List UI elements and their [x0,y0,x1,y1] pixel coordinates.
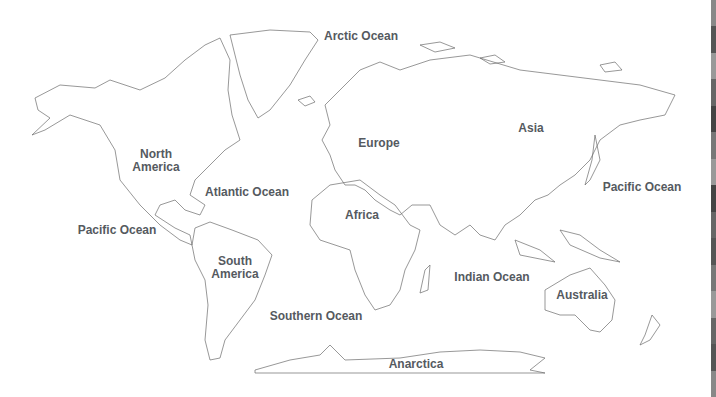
greenland-outline [230,30,318,118]
label-europe: Europe [358,137,399,150]
label-indian-ocean: Indian Ocean [454,271,529,284]
north-america-outline [32,38,240,245]
strip-segment [711,106,716,132]
strip-segment [711,26,716,52]
strip-segment [711,0,716,26]
strip-segment [711,291,716,317]
edge-strip [711,0,716,397]
strip-segment [711,159,716,185]
strip-segment [711,371,716,397]
label-pacific-ocean-west: Pacific Ocean [78,224,157,237]
strip-segment [711,53,716,79]
label-australia: Australia [556,289,607,302]
label-africa: Africa [345,209,379,222]
label-pacific-ocean-east: Pacific Ocean [603,181,682,194]
label-southern-ocean: Southern Ocean [270,310,363,323]
label-atlantic-ocean: Atlantic Ocean [205,186,289,199]
world-map: Arctic Ocean North America Atlantic Ocea… [0,0,700,397]
label-south-america: South America [211,255,258,281]
strip-segment [711,344,716,370]
label-asia: Asia [518,122,543,135]
strip-segment [711,238,716,264]
strip-segment [711,185,716,211]
map-outlines [0,0,700,397]
strip-segment [711,318,716,344]
africa-outline [310,180,420,310]
strip-segment [711,132,716,158]
label-north-america: North America [132,148,179,174]
strip-segment [711,265,716,291]
strip-segment [711,212,716,238]
label-arctic-ocean: Arctic Ocean [324,30,398,43]
label-antarctica: Anarctica [389,358,444,371]
strip-segment [711,79,716,105]
south-america-outline [192,222,272,360]
